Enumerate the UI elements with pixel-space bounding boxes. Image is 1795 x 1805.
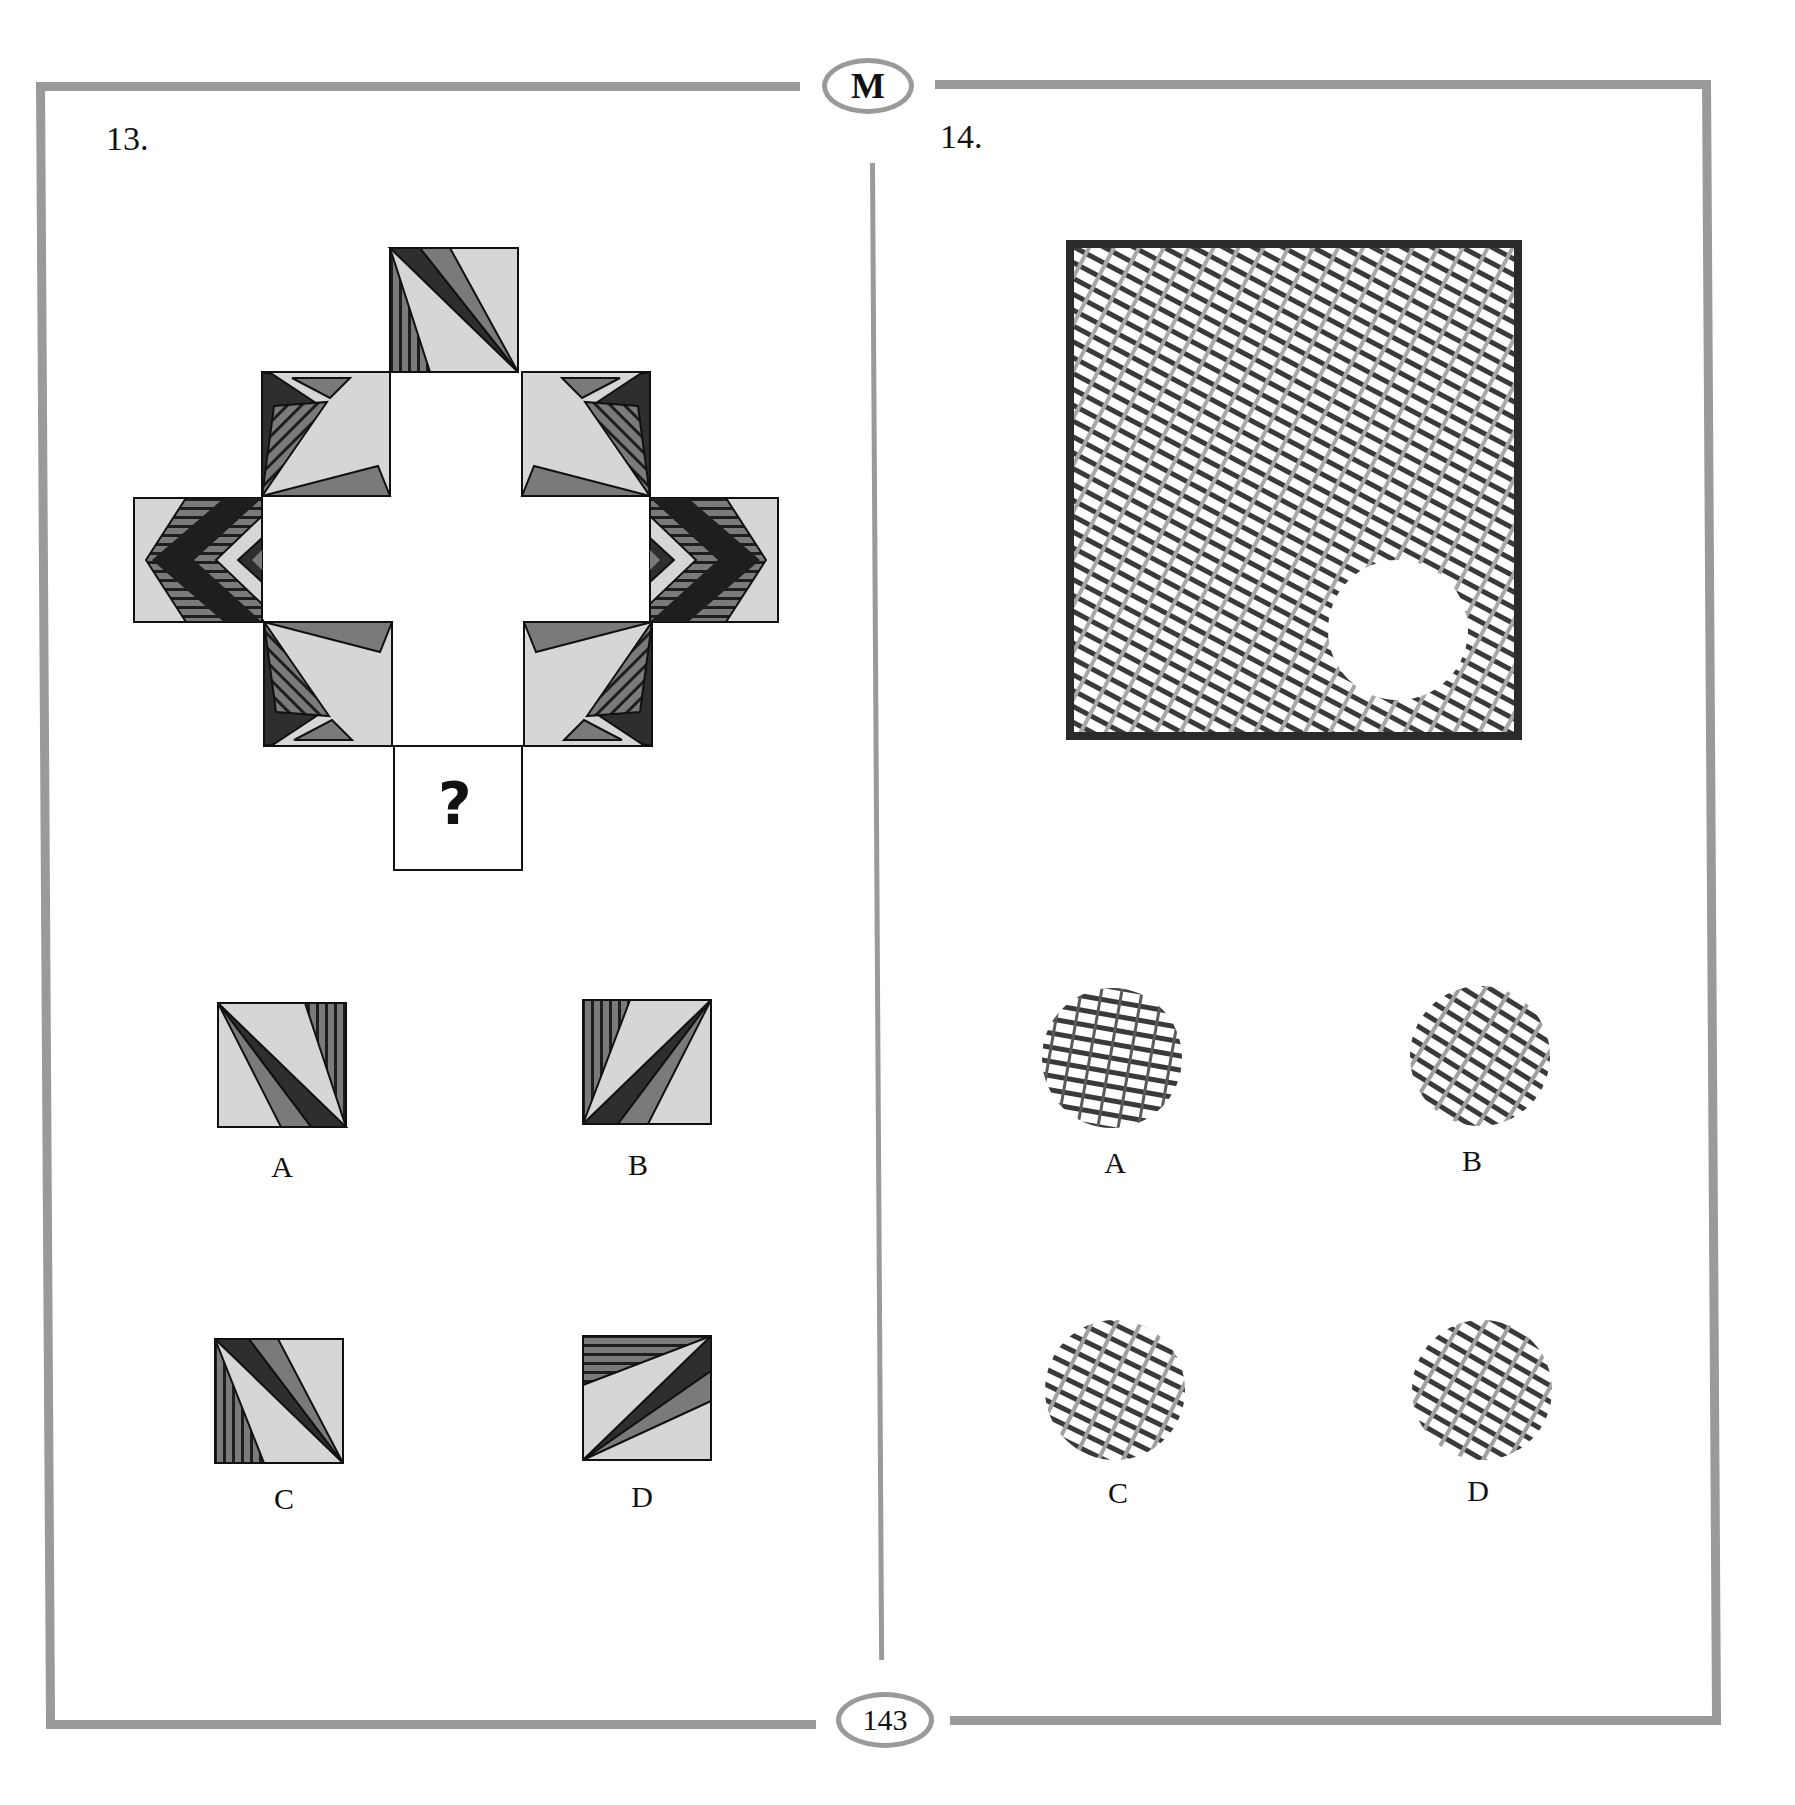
section-badge: M bbox=[822, 58, 914, 114]
q13-option-c[interactable] bbox=[214, 1338, 346, 1466]
frame-bottom-left bbox=[46, 1720, 816, 1729]
frame-bottom-right bbox=[950, 1716, 1720, 1725]
question-14-number: 14. bbox=[940, 118, 983, 156]
q14-option-b[interactable] bbox=[1408, 984, 1552, 1128]
missing-tile-question-mark: ? bbox=[438, 770, 472, 838]
q13-option-a-label: A bbox=[252, 1150, 312, 1184]
q14-option-a[interactable] bbox=[1040, 986, 1184, 1130]
q14-option-c-label: C bbox=[1088, 1476, 1148, 1510]
q13-option-b[interactable] bbox=[582, 999, 714, 1127]
question-14-grid-figure bbox=[1066, 240, 1522, 740]
section-badge-letter: M bbox=[851, 65, 885, 107]
missing-circle-hole bbox=[1328, 560, 1468, 700]
frame-top-left bbox=[36, 82, 800, 91]
center-divider bbox=[870, 163, 884, 1660]
q14-option-b-label: B bbox=[1442, 1144, 1502, 1178]
tile-lower-left bbox=[264, 622, 392, 746]
q13-option-a[interactable] bbox=[217, 1002, 349, 1130]
q13-option-d-label: D bbox=[612, 1480, 672, 1514]
tile-upper-right bbox=[522, 372, 650, 496]
q13-option-c-label: C bbox=[254, 1482, 314, 1516]
tile-upper-left bbox=[262, 372, 390, 496]
frame-top-right bbox=[935, 80, 1710, 89]
tile-lower-right bbox=[524, 622, 652, 746]
page-number-badge: 143 bbox=[836, 1692, 934, 1748]
q14-option-d-label: D bbox=[1448, 1474, 1508, 1508]
tile-right bbox=[650, 498, 778, 622]
frame-right bbox=[1702, 80, 1721, 1725]
frame-left bbox=[36, 82, 55, 1729]
page-number: 143 bbox=[863, 1703, 908, 1737]
q14-option-a-label: A bbox=[1085, 1146, 1145, 1180]
q14-option-c[interactable] bbox=[1043, 1318, 1187, 1462]
q13-option-d[interactable] bbox=[582, 1335, 714, 1463]
tile-left bbox=[134, 498, 262, 622]
q13-option-b-label: B bbox=[608, 1148, 668, 1182]
tile-top bbox=[390, 248, 518, 372]
q14-option-d[interactable] bbox=[1410, 1318, 1554, 1462]
question-13-number: 13. bbox=[106, 120, 149, 158]
